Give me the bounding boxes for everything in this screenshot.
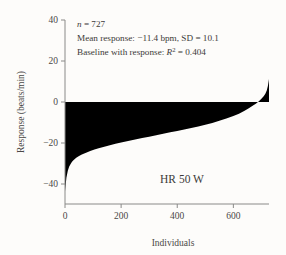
y-tick-label: 40 <box>49 15 59 25</box>
annotation-n: n = 727 <box>77 19 106 29</box>
x-tick-label: 200 <box>114 211 129 221</box>
annotation-r-squared: Baseline with response: R2 = 0.404 <box>77 46 206 57</box>
figure-panel: 40200−20−40 0200400600 Individuals Respo… <box>0 0 286 255</box>
x-tick-label: 0 <box>63 211 68 221</box>
annotation-n-value: = 727 <box>82 19 106 29</box>
x-axis-title: Individuals <box>152 238 195 248</box>
y-tick-label: −20 <box>43 138 58 148</box>
y-axis-title: Response (beats/min) <box>16 71 27 153</box>
annotation-r2-value: = 0.404 <box>175 47 206 57</box>
x-tick-label: 400 <box>170 211 185 221</box>
y-tick-label: 20 <box>49 56 59 66</box>
annotation-mean-sd: Mean response: −11.4 bpm, SD = 10.1 <box>77 33 219 43</box>
annotation-r2-prefix: Baseline with response: <box>77 47 167 57</box>
panel-label: HR 50 W <box>160 173 204 185</box>
y-axis-ticks: 40200−20−40 <box>43 15 65 189</box>
y-tick-label: 0 <box>53 97 58 107</box>
y-tick-label: −40 <box>43 179 58 189</box>
chart-canvas: 40200−20−40 0200400600 Individuals Respo… <box>0 0 286 255</box>
x-tick-label: 600 <box>226 211 241 221</box>
x-axis-ticks: 0200400600 <box>63 204 241 221</box>
